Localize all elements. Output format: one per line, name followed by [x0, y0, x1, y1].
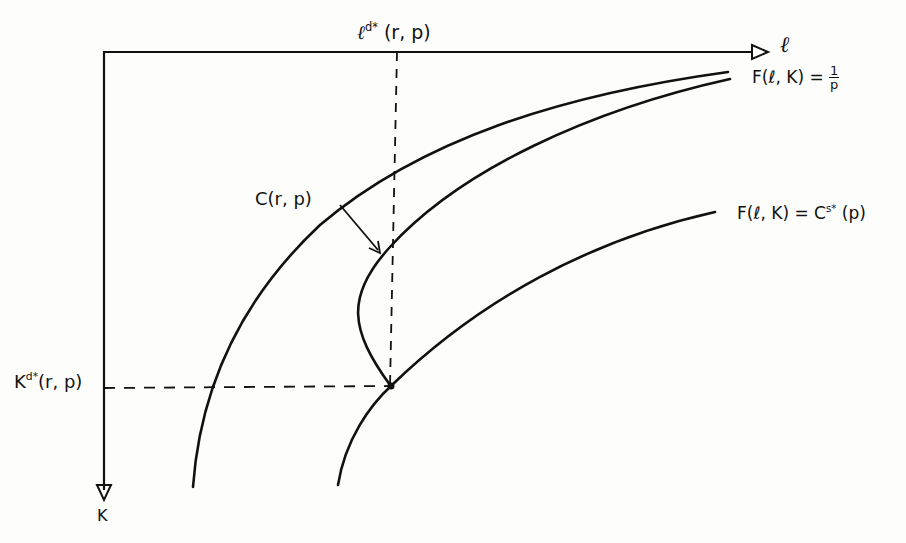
- isoquant-lower-lhs: F(ℓ, K) = C: [737, 203, 826, 223]
- c-curve-label: C(r, p): [255, 190, 312, 208]
- isoquant-upper-lhs: F(ℓ, K) =: [752, 67, 829, 87]
- diagram-canvas: ℓd* (r, p) ℓ F(ℓ, K) = 1 p F(ℓ, K) = Cs*…: [0, 0, 906, 543]
- isoquant-upper-curve: [193, 72, 728, 487]
- fraction-numerator: 1: [829, 64, 839, 78]
- ell-star-args: (r, p): [384, 21, 431, 43]
- horizontal-axis-label: ℓ: [780, 34, 789, 56]
- k-star-symbol: K: [14, 371, 26, 392]
- k-star-args: (r, p): [38, 371, 82, 392]
- isoquant-upper-label: F(ℓ, K) = 1 p: [752, 64, 839, 91]
- vertical-axis-label: K: [97, 508, 108, 524]
- isoquant-lower-args: (p): [842, 203, 866, 223]
- fraction-denominator: p: [829, 78, 839, 91]
- isoquant-lower-label: F(ℓ, K) = Cs* (p): [737, 204, 866, 222]
- optimum-point: [388, 383, 395, 390]
- ell-star-superscript: d*: [365, 20, 378, 34]
- isoquant-lower-superscript: s*: [826, 203, 836, 214]
- ell-star-label: ℓd* (r, p): [357, 22, 431, 42]
- k-star-superscript: d*: [26, 370, 38, 383]
- k-star-label: Kd*(r, p): [14, 372, 82, 391]
- ell-star-symbol: ℓ: [357, 21, 365, 43]
- k-star-guide: [104, 386, 390, 388]
- c-label-arrow: [340, 205, 380, 253]
- vertical-axis: [97, 52, 111, 500]
- isoquant-lower-curve: [338, 212, 715, 485]
- one-over-p-fraction: 1 p: [829, 64, 839, 91]
- c-curve: [358, 79, 730, 385]
- ell-star-guide: [390, 52, 397, 386]
- arrow-right-icon: [752, 45, 768, 59]
- horizontal-axis: [103, 45, 768, 59]
